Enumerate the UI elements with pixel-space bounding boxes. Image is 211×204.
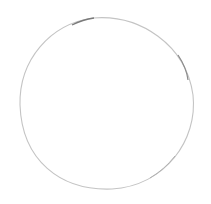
circle-sketch [0, 0, 211, 204]
stroke-accent-top [72, 18, 94, 25]
drawing-canvas [0, 0, 211, 204]
circle-outline [20, 18, 194, 189]
stroke-accent-bottom [150, 156, 175, 178]
